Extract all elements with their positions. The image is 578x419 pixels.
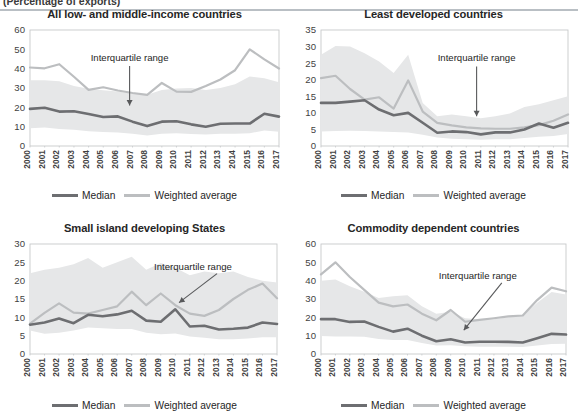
legend-swatch-weighted-average <box>413 194 439 197</box>
x-axis-tick-label: 2004 <box>80 358 90 377</box>
y-axis-tick-label: 20 <box>14 275 25 286</box>
y-axis-tick-label: 40 <box>305 275 316 286</box>
x-axis-tick-label: 2001 <box>37 150 47 169</box>
x-axis-tick-label: 2000 <box>22 358 32 377</box>
legend-label-median: Median <box>82 400 115 411</box>
x-axis-tick-label: 2010 <box>458 150 468 169</box>
chart-title: Least developed countries <box>289 8 578 20</box>
x-axis-tick-label: 2002 <box>51 150 61 169</box>
chart-plot-area: 0102030405060Interquartile range20002001… <box>0 24 289 192</box>
x-axis-tick-label: 2012 <box>487 150 497 169</box>
annotation-arrow-head <box>474 111 480 117</box>
x-axis-tick-label: 2015 <box>240 358 250 377</box>
chart-svg: 05101520253035Interquartile range2000200… <box>289 24 578 192</box>
y-axis-tick-label: 20 <box>305 74 316 85</box>
x-axis-tick-label: 2008 <box>139 150 149 169</box>
chart-plot-area: 051015202530Interquartile range200020012… <box>0 238 289 400</box>
chart-panel-commodity-dependent-countries: Commodity dependent countries 0102030405… <box>289 222 578 419</box>
x-axis-tick-label: 2003 <box>66 358 76 377</box>
interquartile-range-annotation-label: Interquartile range <box>439 270 517 281</box>
y-axis-tick-label: 0 <box>311 348 316 359</box>
legend-item-median: Median <box>341 400 404 411</box>
y-axis-tick-label: 10 <box>14 121 25 132</box>
y-axis-tick-label: 20 <box>305 312 316 323</box>
x-axis-tick-label: 2011 <box>473 150 483 169</box>
x-axis-tick-label: 2007 <box>125 150 135 169</box>
legend-item-weighted-average: Weighted average <box>413 400 526 411</box>
x-axis-tick-label: 2004 <box>81 150 91 169</box>
y-axis-tick-label: 60 <box>305 238 316 249</box>
legend-swatch-median <box>52 194 78 197</box>
x-axis-tick-label: 2016 <box>544 358 554 377</box>
y-axis-tick-label: 10 <box>305 107 316 118</box>
interquartile-range-band <box>321 280 566 347</box>
x-axis-tick-label: 2001 <box>328 150 338 169</box>
y-axis-tick-label: 5 <box>311 124 316 135</box>
legend-item-weighted-average: Weighted average <box>124 400 237 411</box>
x-axis-tick-label: 2010 <box>167 358 177 377</box>
x-axis-tick-label: 2001 <box>37 358 47 377</box>
x-axis-tick-label: 2009 <box>444 150 454 169</box>
y-axis-tick-label: 25 <box>14 257 25 268</box>
legend-label-weighted-average: Weighted average <box>154 400 237 411</box>
chart-legend: Median Weighted average <box>289 190 578 201</box>
x-axis-tick-label: 2004 <box>371 150 381 169</box>
legend-item-median: Median <box>341 190 404 201</box>
x-axis-tick-label: 2002 <box>51 358 61 377</box>
y-axis-tick-label: 5 <box>20 330 25 341</box>
legend-swatch-weighted-average <box>124 194 150 197</box>
chart-legend: Median Weighted average <box>0 400 289 411</box>
chart-legend: Median Weighted average <box>0 190 289 201</box>
figure-page: (Percentage of exports) All low- and mid… <box>0 0 578 419</box>
chart-svg: 0102030405060Interquartile range20002001… <box>0 24 289 192</box>
figure-caption: (Percentage of exports) <box>3 0 120 7</box>
interquartile-range-band <box>30 76 279 135</box>
x-axis-tick-label: 2003 <box>66 150 76 169</box>
legend-swatch-weighted-average <box>413 404 439 407</box>
y-axis-tick-label: 35 <box>305 24 316 35</box>
y-axis-tick-label: 40 <box>14 63 25 74</box>
x-axis-tick-label: 2006 <box>109 358 119 377</box>
legend-swatch-median <box>341 404 367 407</box>
x-axis-tick-label: 2002 <box>342 150 352 169</box>
y-axis-tick-label: 30 <box>305 41 316 52</box>
x-axis-tick-label: 2016 <box>254 358 264 377</box>
y-axis-tick-label: 0 <box>20 348 25 359</box>
y-axis-tick-label: 50 <box>305 257 316 268</box>
legend-label-weighted-average: Weighted average <box>443 400 526 411</box>
legend-swatch-median <box>341 194 367 197</box>
x-axis-tick-label: 2011 <box>472 358 482 377</box>
y-axis-tick-label: 60 <box>14 24 25 35</box>
y-axis-tick-label: 30 <box>14 82 25 93</box>
x-axis-tick-label: 2012 <box>196 358 206 377</box>
x-axis-tick-label: 2008 <box>429 150 439 169</box>
x-axis-tick-label: 2014 <box>225 358 235 377</box>
legend-label-median: Median <box>371 190 404 201</box>
x-axis-tick-label: 2007 <box>415 150 425 169</box>
chart-title: All low- and middle-income countries <box>0 8 289 20</box>
legend-swatch-weighted-average <box>124 404 150 407</box>
chart-panel-least-developed-countries: Least developed countries 05101520253035… <box>289 8 578 213</box>
x-axis-tick-label: 2010 <box>168 150 178 169</box>
x-axis-tick-label: 2010 <box>457 358 467 377</box>
x-axis-tick-label: 2016 <box>545 150 555 169</box>
chart-svg: 051015202530Interquartile range200020012… <box>0 238 289 400</box>
x-axis-tick-label: 2007 <box>414 358 424 377</box>
y-axis-tick-label: 25 <box>305 58 316 69</box>
x-axis-tick-label: 2015 <box>242 150 252 169</box>
y-axis-tick-label: 15 <box>14 293 25 304</box>
x-axis-tick-label: 2005 <box>385 358 395 377</box>
y-axis-tick-label: 0 <box>311 140 316 151</box>
x-axis-tick-label: 2000 <box>313 150 323 169</box>
x-axis-tick-label: 2008 <box>138 358 148 377</box>
legend-item-weighted-average: Weighted average <box>413 190 526 201</box>
chart-title: Commodity dependent countries <box>289 222 578 234</box>
x-axis-tick-label: 2000 <box>313 358 323 377</box>
x-axis-tick-label: 2008 <box>428 358 438 377</box>
x-axis-tick-label: 2011 <box>182 358 192 377</box>
legend-item-median: Median <box>52 190 115 201</box>
x-axis-tick-label: 2013 <box>211 358 221 377</box>
chart-panel-all-low-and-middle-income-countries: All low- and middle-income countries 010… <box>0 8 289 213</box>
y-axis-tick-label: 0 <box>20 140 25 151</box>
x-axis-tick-label: 2014 <box>227 150 237 169</box>
